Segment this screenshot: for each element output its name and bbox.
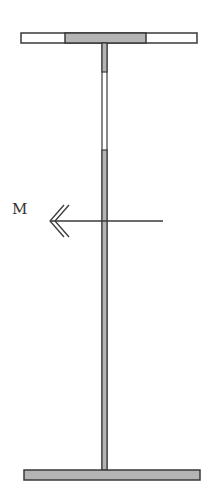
- i-beam-diagram: [0, 0, 209, 499]
- top-flange: [21, 33, 197, 43]
- moment-label: M: [12, 200, 27, 218]
- web: [102, 43, 107, 470]
- bottom-flange: [24, 470, 200, 480]
